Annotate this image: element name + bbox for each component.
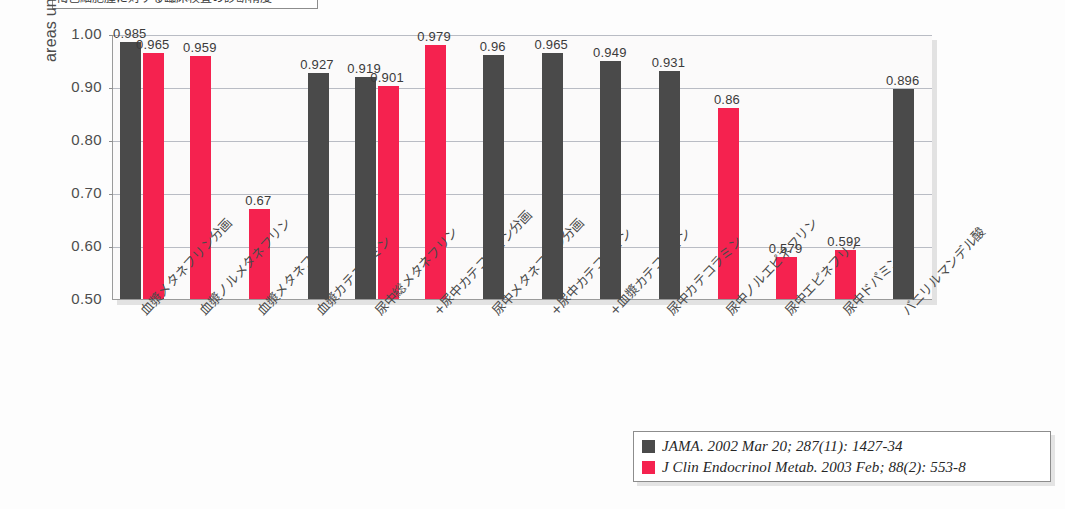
y-axis-tick [109, 247, 113, 248]
bar-value-label: 0.927 [295, 57, 339, 72]
bar-value-label: 0.67 [236, 193, 280, 208]
bar-value-label: 0.86 [705, 92, 749, 107]
bar-value-label: 0.931 [646, 55, 690, 70]
pink-swatch-icon [642, 461, 655, 474]
bar-value-label: 0.949 [588, 45, 632, 60]
y-axis-tick-label: 1.00 [60, 25, 102, 42]
bar-value-label: 0.979 [412, 29, 456, 44]
gridline [113, 141, 932, 142]
y-axis-tick-label: 0.60 [60, 237, 102, 254]
y-axis-title: areas under the ROC curves [42, 0, 60, 62]
y-axis-tick-label: 0.50 [60, 290, 102, 307]
y-axis-tick [109, 88, 113, 89]
legend-item: J Clin Endocrinol Metab. 2003 Feb; 88(2)… [642, 457, 1050, 478]
gridline [113, 35, 932, 36]
y-axis-tick-label: 0.70 [60, 184, 102, 201]
y-axis-tick-label: 0.90 [60, 78, 102, 95]
bar-value-label: 0.901 [365, 70, 409, 85]
legend-item-label: J Clin Endocrinol Metab. 2003 Feb; 88(2)… [662, 459, 966, 476]
y-axis-tick-label: 0.80 [60, 131, 102, 148]
chart-legend: JAMA. 2002 Mar 20; 287(11): 1427-34 J Cl… [633, 431, 1051, 482]
legend-item: JAMA. 2002 Mar 20; 287(11): 1427-34 [642, 436, 1050, 457]
bar [143, 53, 164, 299]
bar-value-label: 0.959 [178, 40, 222, 55]
y-axis-tick [109, 141, 113, 142]
bar [378, 86, 399, 299]
dark-gray-swatch-icon [642, 440, 655, 453]
bar-value-label: 0.96 [471, 39, 515, 54]
bar [120, 42, 141, 299]
y-axis-tick [109, 194, 113, 195]
legend-item-label: JAMA. 2002 Mar 20; 287(11): 1427-34 [662, 438, 903, 455]
bar-value-label: 0.896 [881, 73, 925, 88]
gridline [113, 247, 932, 248]
bar-value-label: 0.965 [131, 37, 175, 52]
bar-value-label: 0.965 [529, 37, 573, 52]
gridline [113, 88, 932, 89]
chart-title: 褐色細胞腫に対する臨床検査の診断精度 [52, 0, 318, 9]
